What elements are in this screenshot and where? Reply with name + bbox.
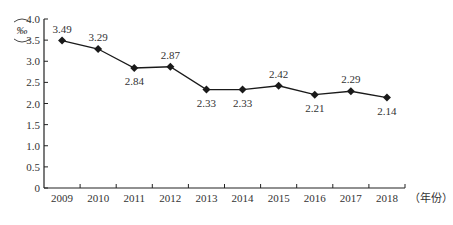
x-axis: 2009201020112012201320142015201620172018 — [44, 184, 405, 204]
y-tick-label: 2.5 — [26, 76, 40, 88]
diamond-marker — [202, 86, 210, 94]
x-tick-label: 2010 — [87, 192, 110, 204]
diamond-marker — [383, 94, 391, 102]
x-tick-label: 2018 — [376, 192, 399, 204]
data-label: 3.49 — [52, 23, 72, 35]
diamond-marker — [94, 45, 102, 53]
x-tick-label: 2014 — [232, 192, 255, 204]
data-label: 2.29 — [341, 73, 361, 85]
x-tick-label: 2009 — [51, 192, 74, 204]
x-tick-label: 2017 — [340, 192, 363, 204]
diamond-marker — [58, 37, 66, 45]
data-label: 2.33 — [233, 97, 253, 109]
diamond-marker — [130, 64, 138, 72]
x-tick-label: 2016 — [304, 192, 327, 204]
diamond-marker — [239, 86, 247, 94]
data-label: 2.87 — [161, 49, 181, 61]
x-axis-unit: （年份） — [409, 191, 453, 204]
x-tick-label: 2011 — [123, 192, 145, 204]
data-label: 3.29 — [89, 31, 109, 43]
diamond-marker — [311, 91, 319, 99]
y-tick-label: 1.0 — [26, 140, 40, 152]
data-label: 2.21 — [305, 102, 324, 114]
data-label: 2.14 — [377, 105, 397, 117]
y-tick-label: 1.5 — [26, 119, 40, 131]
diamond-marker — [166, 63, 174, 71]
y-tick-label: 0 — [35, 182, 41, 194]
y-tick-label: 0.5 — [26, 161, 40, 173]
y-axis: 00.51.01.52.02.53.03.54.0 — [26, 13, 48, 194]
diamond-marker — [347, 87, 355, 95]
series-line — [62, 41, 387, 98]
y-tick-label: 3.0 — [26, 55, 40, 67]
data-label: 2.84 — [125, 75, 145, 87]
x-tick-label: 2012 — [159, 192, 181, 204]
data-label: 2.42 — [269, 68, 288, 80]
diamond-marker — [275, 82, 283, 90]
x-tick-label: 2015 — [268, 192, 291, 204]
y-tick-label: 4.0 — [26, 13, 40, 25]
data-labels: 3.493.292.842.872.332.332.422.212.292.14 — [52, 23, 397, 117]
x-tick-label: 2013 — [195, 192, 218, 204]
y-axis-unit: ‰ — [17, 24, 28, 36]
line-chart: 00.51.01.52.02.53.03.54.0 20092010201120… — [0, 0, 453, 225]
data-label: 2.33 — [197, 97, 217, 109]
y-tick-label: 2.0 — [26, 98, 40, 110]
